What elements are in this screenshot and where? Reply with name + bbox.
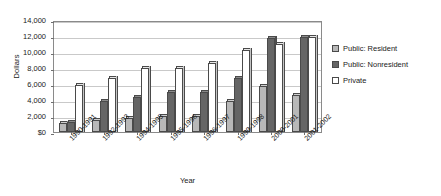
bar (259, 86, 267, 132)
bar (267, 38, 275, 132)
x-axis-title: Year (53, 176, 322, 185)
bar-group (54, 22, 87, 132)
bar (275, 44, 283, 132)
bar-face (234, 78, 242, 132)
bar (234, 78, 242, 132)
y-axis-tick-label: 2,000 (27, 113, 46, 121)
legend-item[interactable]: Public: Resident (332, 42, 440, 55)
bar-face (259, 86, 267, 132)
legend-swatch-icon (332, 61, 339, 68)
bar-face (100, 101, 108, 132)
y-axis-tick-label: 10,000 (23, 49, 46, 57)
legend-swatch-icon (332, 77, 339, 84)
bar (59, 123, 67, 132)
bar-face (200, 92, 208, 132)
bar (200, 92, 208, 132)
y-axis-tick-label: 4,000 (27, 97, 46, 105)
y-axis-tick-label: 6,000 (27, 81, 46, 89)
bar-face (133, 97, 141, 132)
legend-label: Public: Nonresident (343, 60, 408, 69)
bar-face (167, 92, 175, 132)
bar (300, 37, 308, 132)
y-axis-tick-label: $0 (38, 129, 46, 137)
y-axis-tick-label: 14,000 (23, 17, 46, 25)
y-axis-tick-label: 12,000 (23, 33, 46, 41)
legend-item[interactable]: Private (332, 74, 440, 87)
bar-face (59, 123, 67, 132)
bar-side-edge (316, 35, 318, 132)
bar-face (267, 38, 275, 132)
legend-label: Public: Resident (343, 44, 397, 53)
bar (242, 50, 250, 132)
bar (100, 101, 108, 132)
bar (308, 37, 316, 132)
bar-face (242, 50, 250, 132)
y-axis-tick-label: 8,000 (27, 65, 46, 73)
bar (167, 92, 175, 132)
bar-face (275, 44, 283, 132)
y-axis-tick-labels: $02,0004,0006,0008,00010,00012,00014,000 (0, 0, 50, 196)
bar-face (300, 37, 308, 132)
legend-item[interactable]: Public: Nonresident (332, 58, 440, 71)
bar-side-edge (283, 42, 285, 132)
bar (133, 97, 141, 132)
bar-face (308, 37, 316, 132)
legend-swatch-icon (332, 45, 339, 52)
chart-legend: Public: ResidentPublic: NonresidentPriva… (332, 42, 440, 90)
legend-label: Private (343, 76, 366, 85)
bar-chart: Dollars $02,0004,0006,0008,00010,00012,0… (0, 0, 441, 196)
